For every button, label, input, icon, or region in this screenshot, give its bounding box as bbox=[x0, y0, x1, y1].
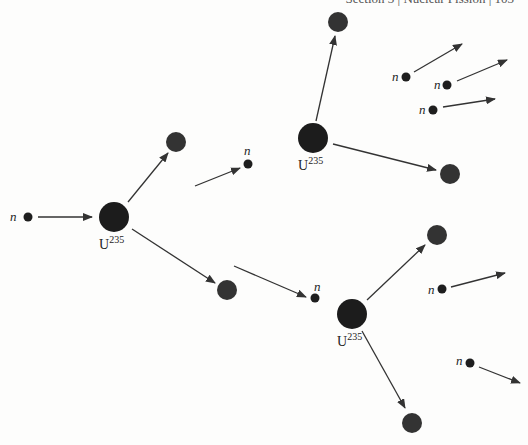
neutrons-layer: nnnnnnnn bbox=[10, 69, 475, 368]
trajectory-arrow bbox=[362, 331, 405, 408]
trajectory-arrow bbox=[316, 36, 335, 121]
trajectory-arrow bbox=[333, 144, 436, 170]
trajectory-arrow bbox=[234, 266, 306, 297]
neutron-label: n bbox=[392, 69, 399, 84]
neutron-label: n bbox=[244, 143, 251, 158]
uranium-235-label: U235 bbox=[298, 155, 323, 173]
fission-fragment bbox=[217, 280, 237, 300]
trajectory-arrow bbox=[128, 153, 168, 202]
trajectory-arrow bbox=[367, 245, 425, 300]
chain-reaction-graphic: nnnnnnnn U235U235U235 bbox=[0, 0, 528, 445]
uranium-235-nucleus bbox=[99, 202, 129, 232]
neutron-particle bbox=[466, 359, 475, 368]
neutron-label: n bbox=[314, 279, 321, 294]
neutron-label: n bbox=[419, 102, 426, 117]
nuclei-layer: U235U235U235 bbox=[99, 123, 367, 349]
fission-fragment bbox=[427, 225, 447, 245]
neutron-label: n bbox=[10, 209, 17, 224]
fission-fragment bbox=[402, 413, 422, 433]
trajectory-arrow bbox=[451, 273, 505, 287]
fission-fragment bbox=[166, 132, 186, 152]
trajectory-arrow bbox=[443, 99, 495, 107]
neutron-particle bbox=[429, 106, 438, 115]
trajectory-arrow bbox=[195, 168, 240, 186]
trajectory-arrow bbox=[479, 367, 520, 383]
trajectory-arrow bbox=[414, 44, 462, 72]
neutron-label: n bbox=[428, 282, 435, 297]
neutron-particle bbox=[443, 81, 452, 90]
neutron-label: n bbox=[456, 353, 463, 368]
neutron-particle bbox=[402, 73, 411, 82]
neutron-label: n bbox=[434, 77, 441, 92]
neutron-particle bbox=[24, 213, 33, 222]
fission-fragment bbox=[440, 164, 460, 184]
fission-chain-diagram: Section 3 | Nuclear Fission | 103 nnnnnn… bbox=[0, 0, 528, 445]
fragments-layer bbox=[166, 12, 460, 433]
uranium-235-nucleus bbox=[298, 123, 328, 153]
uranium-235-label: U235 bbox=[99, 234, 124, 252]
uranium-235-nucleus bbox=[337, 299, 367, 329]
neutron-particle bbox=[244, 160, 253, 169]
neutron-particle bbox=[311, 294, 320, 303]
trajectory-arrow bbox=[457, 60, 507, 81]
neutron-particle bbox=[438, 285, 447, 294]
uranium-235-label: U235 bbox=[337, 331, 362, 349]
trajectory-arrow bbox=[132, 229, 215, 283]
fission-fragment bbox=[328, 12, 348, 32]
